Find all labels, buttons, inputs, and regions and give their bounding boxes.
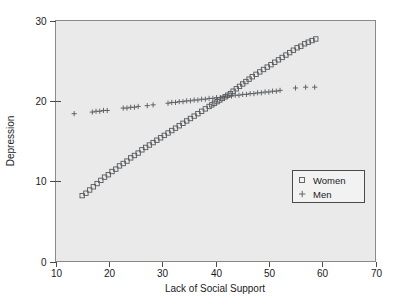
legend-label-women: Women bbox=[313, 175, 346, 186]
y-axis-title: Depression bbox=[5, 116, 16, 167]
scatter-chart: 10203040506070 0102030 Lack of Social Su… bbox=[0, 0, 401, 307]
x-tick-label: 10 bbox=[51, 268, 63, 279]
legend-label-men: Men bbox=[313, 189, 331, 200]
x-tick-label: 50 bbox=[264, 268, 276, 279]
y-tick-label: 10 bbox=[35, 176, 47, 187]
x-tick-label: 40 bbox=[211, 268, 223, 279]
x-tick-label: 30 bbox=[157, 268, 169, 279]
x-tick-label: 20 bbox=[104, 268, 116, 279]
x-axis-title: Lack of Social Support bbox=[165, 283, 265, 294]
x-tick-label: 70 bbox=[371, 268, 383, 279]
y-tick-label: 30 bbox=[35, 16, 47, 27]
y-tick-label: 20 bbox=[35, 96, 47, 107]
x-tick-label: 60 bbox=[317, 268, 329, 279]
y-tick-label: 0 bbox=[41, 257, 47, 268]
plot-area bbox=[56, 21, 376, 262]
chart-svg: 10203040506070 0102030 Lack of Social Su… bbox=[0, 0, 401, 307]
chart-legend: Women Men bbox=[293, 171, 365, 203]
